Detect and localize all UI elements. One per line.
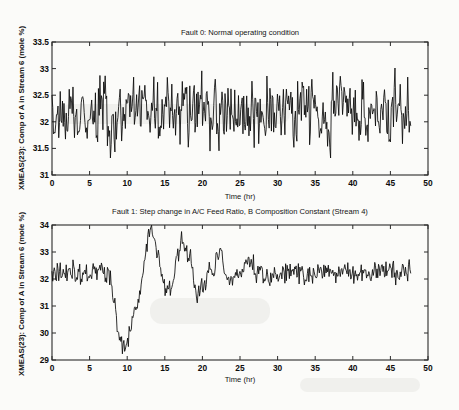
- chart-title-bottom: Fault 1: Step change in A/C Feed Ratio, …: [112, 207, 368, 216]
- figure-page: Fault 0: Normal operating condition 0510…: [0, 0, 459, 410]
- y-tick-label: 34: [40, 220, 50, 230]
- subplot-fault-1: Fault 1: Step change in A/C Feed Ratio, …: [0, 196, 459, 410]
- x-tick-label: 40: [348, 178, 358, 188]
- x-tick-label: 30: [273, 178, 283, 188]
- y-tick-label: 31: [40, 301, 50, 311]
- x-tick-label: 10: [123, 178, 133, 188]
- x-axis-label-bottom: Time (hr): [225, 375, 256, 384]
- y-tick-label: 30: [40, 328, 50, 338]
- y-axis-label-top: XMEAS(23): Comp of A in Stream 6 (mole %…: [17, 26, 26, 190]
- x-tick-label: 25: [235, 363, 245, 373]
- x-tick-label: 0: [50, 363, 55, 373]
- y-axis-label-bottom: XMEAS(23): Comp of A in Stream 6 (mole %…: [17, 212, 26, 376]
- x-tick-label: 0: [50, 178, 55, 188]
- y-tick-label: 33: [40, 247, 50, 257]
- data-series-line-bottom: [52, 225, 411, 354]
- x-tick-label: 50: [423, 363, 433, 373]
- x-tick-label: 10: [123, 363, 133, 373]
- y-tick-label: 32: [40, 117, 50, 127]
- subplot-fault-0: Fault 0: Normal operating condition 0510…: [0, 0, 459, 205]
- x-tick-label: 45: [386, 363, 396, 373]
- fault-1-chart: Fault 1: Step change in A/C Feed Ratio, …: [0, 196, 459, 410]
- y-tick-label: 29: [40, 355, 50, 365]
- x-tick-label: 5: [87, 363, 92, 373]
- x-tick-label: 15: [160, 178, 170, 188]
- y-tick-label: 31: [40, 170, 50, 180]
- x-tick-label: 15: [160, 363, 170, 373]
- x-tick-label: 35: [311, 363, 321, 373]
- x-tick-label: 20: [198, 363, 208, 373]
- x-tick-label: 40: [348, 363, 358, 373]
- x-tick-label: 25: [235, 178, 245, 188]
- fault-0-chart: Fault 0: Normal operating condition 0510…: [0, 0, 459, 205]
- x-tick-label: 20: [198, 178, 208, 188]
- y-tick-label: 33: [40, 64, 50, 74]
- x-tick-label: 35: [311, 178, 321, 188]
- chart-title-top: Fault 0: Normal operating condition: [181, 28, 299, 37]
- x-tick-label: 45: [386, 178, 396, 188]
- x-tick-label: 5: [87, 178, 92, 188]
- x-tick-label: 50: [423, 178, 433, 188]
- y-tick-label: 32.5: [33, 90, 50, 100]
- y-tick-label: 33.5: [33, 37, 50, 47]
- axes-frame: [52, 225, 428, 360]
- y-tick-label: 31.5: [33, 143, 50, 153]
- data-series-line-top: [52, 68, 411, 158]
- y-tick-label: 32: [40, 274, 50, 284]
- axes-frame: [52, 42, 428, 175]
- x-tick-label: 30: [273, 363, 283, 373]
